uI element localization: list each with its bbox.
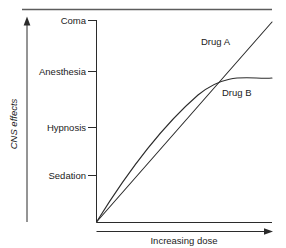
x-axis-title: Increasing dose (150, 235, 217, 246)
series-label-drug-b: Drug B (222, 87, 252, 98)
figure-container: CNS effects Coma Anesthesia Hypnosis Sed… (0, 0, 286, 248)
y-axis-direction-arrow (24, 17, 31, 223)
y-tick-label-sedation: Sedation (48, 170, 86, 181)
cns-effects-dose-response-chart: CNS effects Coma Anesthesia Hypnosis Sed… (0, 0, 286, 248)
y-tick-label-coma: Coma (61, 15, 87, 26)
series-curve-drug-b (97, 78, 273, 222)
y-tick-label-hypnosis: Hypnosis (47, 122, 86, 133)
y-axis-title: CNS effects (8, 98, 19, 149)
y-tick-label-anesthesia: Anesthesia (39, 66, 87, 77)
x-axis-direction-arrow (97, 228, 274, 235)
series-line-drug-a (97, 22, 273, 222)
series-label-drug-a: Drug A (201, 36, 231, 47)
